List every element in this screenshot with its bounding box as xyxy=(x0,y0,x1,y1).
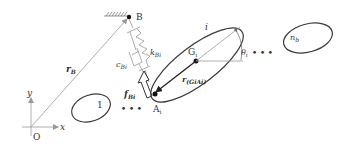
relative-vector-label: r(GiAi) xyxy=(182,74,206,85)
point-Ai xyxy=(153,92,158,97)
body-nb: nb xyxy=(280,18,336,58)
body-i: i xyxy=(141,16,253,114)
damper-label: cBi xyxy=(116,60,127,70)
relative-vector xyxy=(156,61,196,92)
body-i-outline xyxy=(141,16,253,114)
spring xyxy=(136,29,150,60)
origin-label: O xyxy=(33,132,40,142)
Gi-label: Gi xyxy=(188,47,197,58)
y-axis-label: y xyxy=(26,88,33,98)
anchor-B: B xyxy=(104,12,143,22)
rB-label: rB xyxy=(66,64,76,75)
body-i-label: i xyxy=(205,22,208,32)
spring-damper xyxy=(127,19,150,82)
ellipsis-left: • • • xyxy=(121,103,142,113)
theta-label: θi xyxy=(241,48,248,58)
force-arrow-fBi: fBi xyxy=(123,71,152,100)
damper-cylinder xyxy=(129,48,142,66)
point-B xyxy=(127,15,131,19)
force-label: fBi xyxy=(123,89,136,100)
ground-hatch-icon xyxy=(106,12,127,16)
Ai-label: Ai xyxy=(152,104,162,115)
anchor-B-label: B xyxy=(136,12,143,22)
position-vector-rB: rB xyxy=(31,19,127,127)
body-nb-label: nb xyxy=(290,33,299,43)
x-axis-label: x xyxy=(60,122,65,132)
spring-label: kBi xyxy=(150,48,161,58)
body-1-label: 1 xyxy=(97,100,103,110)
body-1: 1 xyxy=(68,89,114,127)
multibody-diagram: x y O rB B xyxy=(0,0,347,145)
ellipsis-right: • • • xyxy=(252,47,273,57)
